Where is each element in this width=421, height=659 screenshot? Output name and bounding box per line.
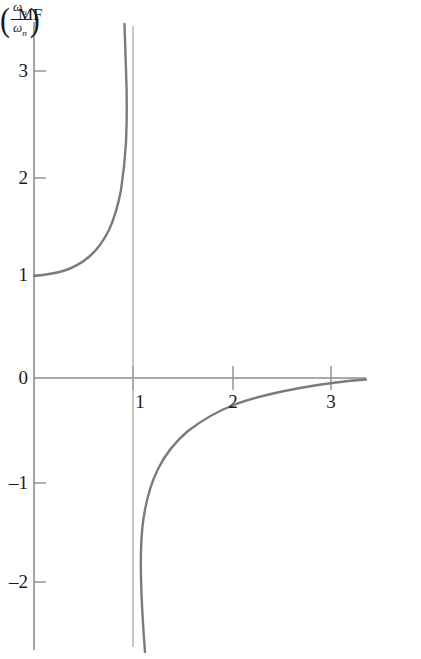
y-tick-label-minus-1: –1 [0, 473, 28, 492]
y-tick-label-2: 2 [0, 168, 28, 187]
x-tick-label-1: 1 [129, 392, 151, 411]
chart-plot-area [0, 0, 421, 659]
y-tick-label-0: 0 [0, 368, 28, 387]
y-tick-label-3: 3 [0, 61, 28, 80]
x-axis-title-open-paren: ( [0, 2, 10, 37]
mf-curve-left-branch [34, 24, 127, 276]
y-tick-label-1: 1 [0, 265, 28, 284]
y-tick-label-minus-2: –2 [0, 572, 28, 591]
x-tick-label-2: 2 [222, 392, 244, 411]
axes-group [34, 22, 366, 650]
x-tick-label-3: 3 [320, 392, 342, 411]
y-axis-ticks [34, 71, 46, 582]
mf-curve-right-branch [141, 380, 366, 653]
x-axis-title-close-paren: ) [30, 2, 40, 37]
chart-figure: MF 3 2 1 0 –1 –2 1 2 3 ( ωo ωn ) [0, 0, 421, 659]
